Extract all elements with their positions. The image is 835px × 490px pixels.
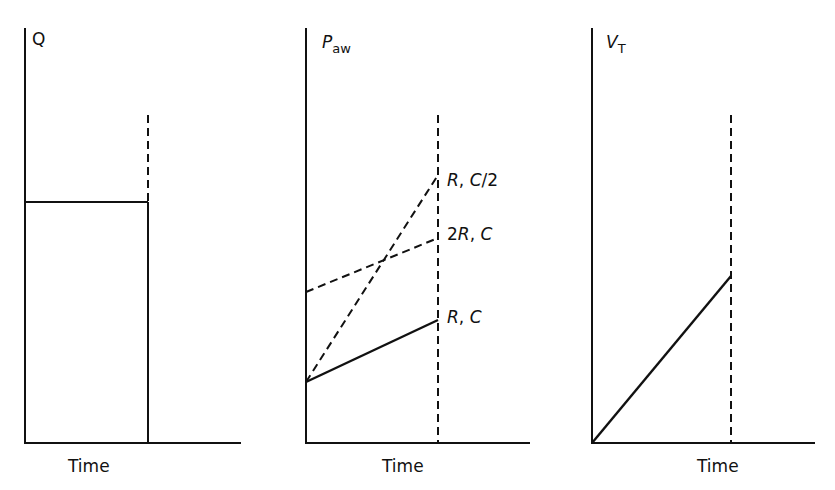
panel-paw: Paw R, C/2 2R, C R, C Time: [305, 28, 530, 476]
panel-vt: VT Time: [591, 28, 815, 476]
series-2r-c: [306, 238, 438, 292]
series-r-c: [306, 320, 438, 382]
x-axis-label: Time: [696, 456, 739, 476]
label-r-c: R, C: [447, 307, 482, 327]
figure: Q Time Paw R, C/2 2R, C R, C Time VT Tim…: [0, 0, 835, 490]
x-axis-label: Time: [67, 456, 110, 476]
series-vt: [592, 276, 731, 443]
panel-q: Q Time: [24, 28, 241, 476]
label-2r-c: 2R, C: [447, 224, 492, 244]
y-axis-label: Paw: [322, 32, 351, 56]
x-axis-label: Time: [381, 456, 424, 476]
y-axis-label: VT: [606, 32, 626, 56]
y-axis-label: Q: [32, 29, 45, 49]
label-r-c-half: R, C/2: [447, 170, 498, 190]
